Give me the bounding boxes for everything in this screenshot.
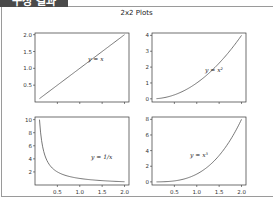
y-tick-label: 0 <box>146 179 150 185</box>
y-tick-label: 2 <box>29 169 33 175</box>
y-tick-label: 4 <box>146 148 150 154</box>
x-tick-label: 1.0 <box>192 189 201 195</box>
curve-annotation: y = x <box>87 55 104 63</box>
x-tick-label: 2.0 <box>120 189 129 195</box>
y-tick-label: 10 <box>25 117 32 123</box>
x-tick-label: 0.5 <box>170 189 179 195</box>
y-tick-label: 1 <box>146 80 150 86</box>
y-tick-label: 2 <box>146 64 150 70</box>
y-tick-label: 1.0 <box>23 65 32 71</box>
subplot-bottom-left: 2468100.51.01.52.0y = 1/x <box>25 117 129 195</box>
x-tick-label: 1.5 <box>98 189 107 195</box>
plots-canvas: 0.51.01.52.0y = x01234y = x²2468100.51.0… <box>0 0 273 202</box>
y-tick-label: 3 <box>146 48 150 54</box>
y-tick-label: 8 <box>29 130 33 136</box>
subplot-top-right: 01234y = x² <box>146 32 247 104</box>
y-tick-label: 2.0 <box>23 32 32 38</box>
y-tick-label: 4 <box>29 156 33 162</box>
y-tick-label: 0.5 <box>23 82 32 88</box>
curve-annotation: y = x³ <box>189 151 209 159</box>
y-tick-label: 2 <box>146 163 150 169</box>
y-tick-label: 8 <box>146 116 150 122</box>
y-tick-label: 0 <box>146 96 150 102</box>
axes-box <box>152 33 246 102</box>
subplot-top-left: 0.51.01.52.0y = x <box>23 32 129 104</box>
subplot-bottom-right: 024680.51.01.52.0y = x³ <box>146 116 247 195</box>
x-tick-label: 1.0 <box>75 189 84 195</box>
y-tick-label: 4 <box>146 32 150 38</box>
x-tick-label: 0.5 <box>53 189 62 195</box>
y-tick-label: 6 <box>146 132 150 138</box>
curve-annotation: y = 1/x <box>90 153 113 161</box>
y-tick-label: 6 <box>29 143 33 149</box>
curve-annotation: y = x² <box>204 66 224 74</box>
axes-box <box>35 117 129 185</box>
x-tick-label: 1.5 <box>215 189 224 195</box>
x-tick-label: 2.0 <box>237 189 246 195</box>
y-tick-label: 1.5 <box>23 49 32 55</box>
